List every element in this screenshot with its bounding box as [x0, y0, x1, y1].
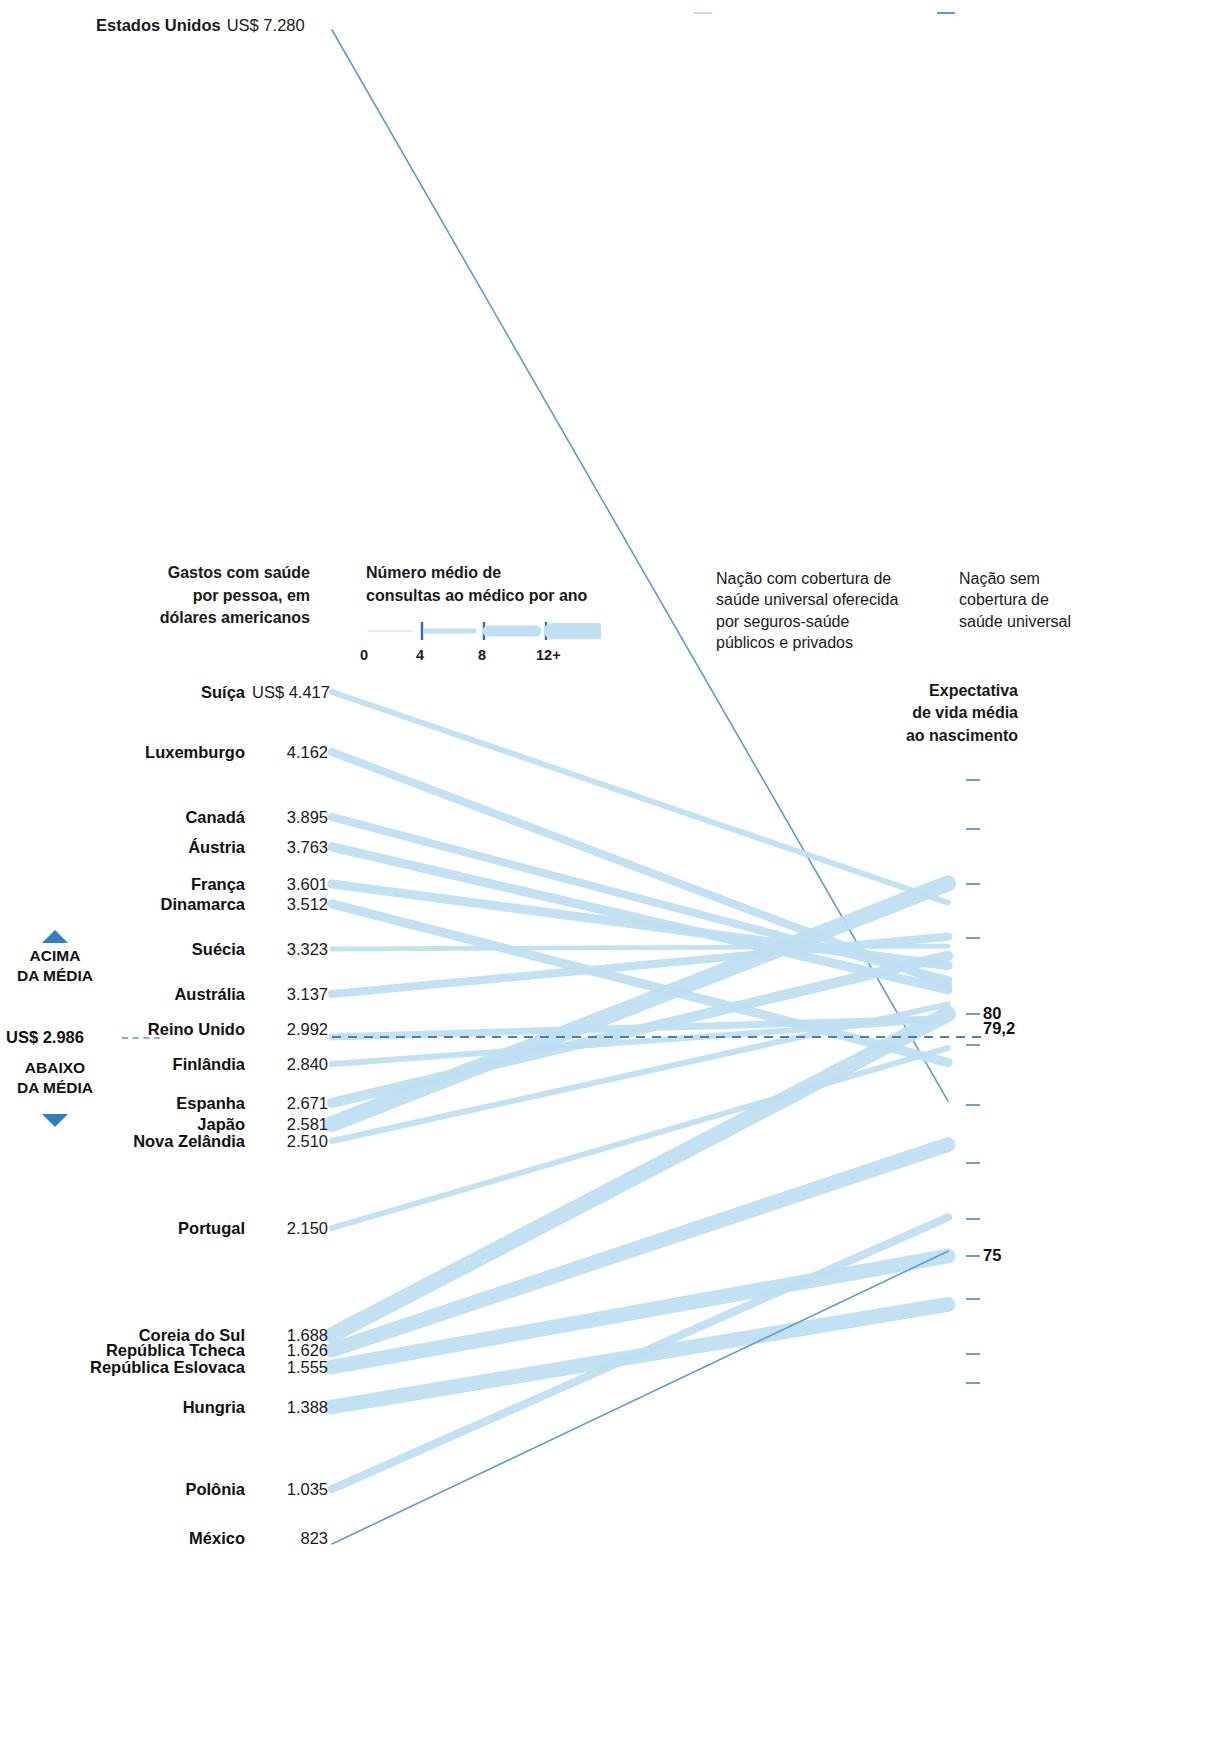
- country-value: 2.150: [252, 1219, 328, 1238]
- slope-line: [332, 1304, 948, 1407]
- country-name: França: [191, 875, 245, 894]
- width-label-4: 4: [416, 647, 424, 663]
- country-value: 1.035: [252, 1480, 328, 1499]
- above-average-line-2: DA MÉDIA: [0, 966, 110, 986]
- above-average-label: ACIMA DA MÉDIA: [0, 946, 110, 986]
- legend-visits-line-1: Número médio de: [366, 562, 616, 585]
- slope-line: [332, 1048, 948, 1228]
- slope-line: [332, 904, 948, 1062]
- slope-line: [332, 884, 948, 966]
- right-axis-title-line-1: Expectativa: [878, 680, 1018, 702]
- country-name: Luxemburgo: [145, 743, 245, 762]
- legend-visits-line-2: consultas ao médico por ano: [366, 585, 616, 608]
- slope-line: [332, 956, 948, 1103]
- country-value: 1.388: [252, 1398, 328, 1417]
- country-name: República Eslovaca: [90, 1358, 245, 1377]
- country-value: 3.137: [252, 985, 328, 1004]
- slope-line: [332, 946, 948, 949]
- legend-non-universal-swatch: [937, 12, 955, 14]
- country-name: Áustria: [188, 838, 245, 857]
- legend-universal-text: Nação com cobertura de saúde universal o…: [716, 568, 916, 653]
- right-axis-title-line-2: de vida média: [878, 702, 1018, 724]
- country-value: 823: [252, 1529, 328, 1548]
- country-name: Reino Unido: [148, 1020, 245, 1039]
- slope-line: [332, 1019, 948, 1037]
- country-name: Portugal: [178, 1219, 245, 1238]
- right-axis-title-line-3: ao nascimento: [878, 725, 1018, 747]
- slope-line: [332, 1251, 948, 1544]
- country-name: Hungria: [183, 1398, 245, 1417]
- slope-line: [332, 883, 948, 1124]
- slope-line: [332, 937, 948, 994]
- slope-lines-group: [332, 30, 948, 1544]
- width-label-0: 0: [360, 647, 368, 663]
- country-value: 2.671: [252, 1094, 328, 1113]
- legend-spending-line-1: Gastos com saúde: [110, 562, 310, 585]
- triangle-up-icon: [42, 930, 68, 943]
- country-value: 4.162: [252, 743, 328, 762]
- width-label-8: 8: [478, 647, 486, 663]
- country-value: US$ 4.417: [252, 683, 328, 702]
- width-label-12: 12+: [536, 647, 561, 663]
- country-value: 2.840: [252, 1055, 328, 1074]
- slope-line: [332, 1014, 948, 1335]
- legend-non-universal-line-2: cobertura de: [959, 589, 1099, 610]
- country-name: Dinamarca: [161, 895, 245, 914]
- legend-spending-title: Gastos com saúde por pessoa, em dólares …: [110, 562, 310, 630]
- legend-non-universal-line-3: saúde universal: [959, 611, 1099, 632]
- slope-line: [332, 1019, 948, 1064]
- legend-spending-line-3: dólares americanos: [110, 607, 310, 630]
- below-average-line-1: ABAIXO: [0, 1058, 110, 1078]
- right-axis-title: Expectativa de vida média ao nascimento: [878, 680, 1018, 747]
- country-name: Suécia: [192, 940, 245, 959]
- country-value: 1.555: [252, 1358, 328, 1377]
- slope-line: [332, 752, 948, 985]
- average-value-label: US$ 2.986: [0, 1028, 118, 1047]
- country-value: 3.323: [252, 940, 328, 959]
- slope-line: [332, 1145, 948, 1350]
- axis-tick-label: 75: [983, 1246, 1001, 1265]
- country-name-column: SuíçaLuxemburgoCanadáÁustriaFrançaDinama…: [0, 0, 245, 1763]
- legend-visits-title: Número médio de consultas ao médico por …: [366, 562, 616, 607]
- country-name: Nova Zelândia: [133, 1132, 245, 1151]
- legend-universal-line-1: Nação com cobertura de: [716, 568, 916, 589]
- legend-width-tick-labels: 0 4 8 12+: [360, 647, 610, 667]
- country-name: Suíça: [201, 683, 245, 702]
- slope-line: [332, 1217, 948, 1489]
- country-name: México: [189, 1529, 245, 1548]
- legend-width-scale: [366, 620, 601, 642]
- below-average-line-2: DA MÉDIA: [0, 1078, 110, 1098]
- country-value: 3.512: [252, 895, 328, 914]
- country-value-column: US$ 4.4174.1623.8953.7633.6013.5123.3233…: [252, 0, 328, 1763]
- triangle-down-icon: [42, 1114, 68, 1127]
- above-average-line-1: ACIMA: [0, 946, 110, 966]
- legend-universal-line-2: saúde universal oferecida: [716, 589, 916, 610]
- country-name: Canadá: [185, 808, 245, 827]
- right-axis-ticks-group: [966, 780, 980, 1383]
- below-average-label: ABAIXO DA MÉDIA: [0, 1058, 110, 1098]
- legend-non-universal-line-1: Nação sem: [959, 568, 1099, 589]
- average-dash-connector: [122, 1037, 160, 1039]
- country-value: 2.992: [252, 1020, 328, 1039]
- country-value: 2.510: [252, 1132, 328, 1151]
- slope-line: [332, 847, 948, 990]
- country-name: Espanha: [176, 1094, 245, 1113]
- country-name: Austrália: [174, 985, 245, 1004]
- country-name: Finlândia: [173, 1055, 245, 1074]
- slope-line: [332, 1256, 948, 1367]
- legend-universal-swatch: [694, 12, 712, 14]
- slope-line: [332, 817, 948, 980]
- legend-universal-line-4: públicos e privados: [716, 632, 916, 653]
- country-value: 3.763: [252, 838, 328, 857]
- legend-spending-line-2: por pessoa, em: [110, 585, 310, 608]
- legend-universal-line-3: por seguros-saúde: [716, 611, 916, 632]
- country-value: 3.895: [252, 808, 328, 827]
- country-value: 3.601: [252, 875, 328, 894]
- legend-non-universal-text: Nação sem cobertura de saúde universal: [959, 568, 1099, 632]
- country-name: Polônia: [185, 1480, 245, 1499]
- slope-line: [332, 692, 948, 903]
- axis-tick-label: 79,2: [983, 1019, 1015, 1038]
- slope-line: [332, 1004, 948, 1141]
